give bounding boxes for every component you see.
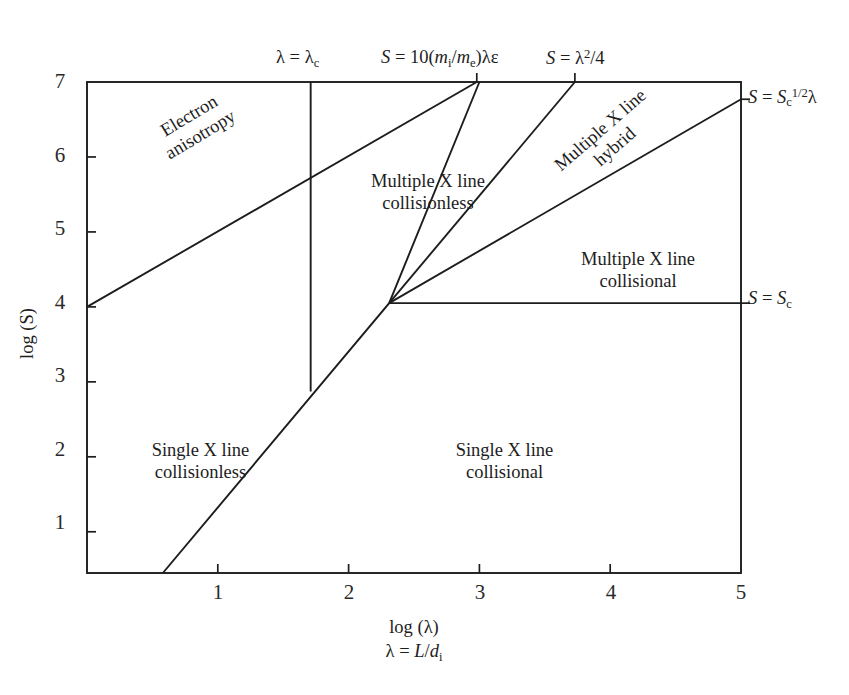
region-multiple-x-collisional: Multiple X line collisional [538,249,738,293]
y-tick-4: 4 [48,290,72,315]
region-multiple-x-collisionless-line2: collisionless [328,193,528,215]
region-multiple-x-collisionless-line1: Multiple X line [328,171,528,193]
boundary-label-s-ion-electron: S = 10(mi/me)λε [381,47,499,70]
x-tick-2: 2 [337,580,361,605]
x-tick-1: 1 [206,580,230,605]
region-single-x-collisional-line1: Single X line [412,440,597,462]
figure-canvas: 7 6 5 4 3 2 1 1 2 3 4 5 log (S) log (λ) … [0,0,849,695]
x-axis-title-line2: λ = L/di [354,641,474,664]
region-single-x-collisionless-line1: Single X line [108,440,293,462]
y-axis-title: log (S) [17,289,38,379]
boundary-label-s-lambda-squared: S = λ2/4 [546,47,605,69]
x-tick-4: 4 [599,580,623,605]
region-multiple-x-collisional-line1: Multiple X line [538,249,738,271]
region-single-x-collisional-line2: collisional [412,462,597,484]
region-multiple-x-collisionless: Multiple X line collisionless [328,171,528,215]
phase-diagram-svg [0,0,849,695]
region-single-x-collisionless-line2: collisionless [108,462,293,484]
region-single-x-collisional: Single X line collisional [412,440,597,484]
boundary-s-10-m-i-m-e-lambda-epsilon [163,82,480,573]
y-tick-1: 1 [48,510,72,535]
region-multiple-x-collisional-line2: collisional [538,271,738,293]
x-tick-3: 3 [468,580,492,605]
y-tick-7: 7 [48,69,72,94]
y-tick-6: 6 [48,143,72,168]
y-tick-3: 3 [48,363,72,388]
boundary-label-s-sqrt-sc: S = Sc1/2λ [748,86,817,110]
boundary-label-lambda-c: λ = λc [276,47,319,70]
y-tick-5: 5 [48,216,72,241]
y-tick-2: 2 [48,437,72,462]
region-single-x-collisionless: Single X line collisionless [108,440,293,484]
boundary-label-s-sc: S = Sc [748,288,792,311]
x-axis-title-line1: log (λ) [354,617,474,639]
x-tick-5: 5 [729,580,753,605]
